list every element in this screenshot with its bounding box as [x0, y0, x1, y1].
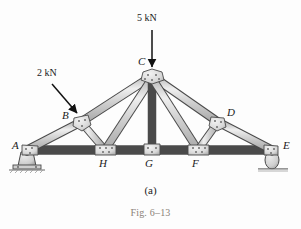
joint-label-C: C	[138, 56, 145, 67]
joint-label-E: E	[283, 140, 290, 151]
joint-A	[22, 145, 38, 155]
joint-H	[95, 145, 116, 155]
joint-label-D: D	[227, 107, 235, 118]
load-label-5kn: 5 kN	[137, 13, 157, 23]
joint-F	[188, 145, 209, 155]
load-label-2kn: 2 kN	[37, 68, 57, 78]
joint-label-A: A	[12, 140, 19, 151]
subfigure-caption: (a)	[0, 184, 301, 196]
figure-container: 5 kN 2 kN A B C D E F G H (a) Fig. 6–13	[0, 0, 301, 229]
joint-label-F: F	[192, 158, 199, 169]
joint-label-G: G	[145, 158, 153, 169]
joint-E	[264, 145, 278, 155]
joint-label-B: B	[62, 110, 69, 121]
figure-caption: Fig. 6–13	[0, 207, 301, 218]
joint-label-H: H	[99, 158, 107, 169]
joint-G	[144, 144, 160, 155]
